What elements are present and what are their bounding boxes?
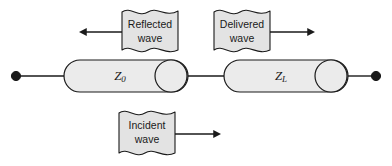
- z0-cylinder-endcap: [155, 60, 187, 92]
- transmission-line-diagram: Z0 ZL Reflected wave Delivered wave: [0, 0, 392, 166]
- incident-wave-callout: Incident wave: [119, 111, 214, 154]
- incident-wave-text-line1: Incident: [129, 119, 166, 131]
- delivered-wave-text-line1: Delivered: [220, 18, 265, 30]
- figure-root: Z0 ZL Reflected wave Delivered wave: [0, 0, 392, 166]
- delivered-wave-text-line2: wave: [229, 32, 255, 44]
- zl-cylinder-endcap: [315, 60, 347, 92]
- reflected-wave-callout: Reflected wave: [86, 10, 178, 51]
- reflected-wave-text-line2: wave: [137, 32, 163, 44]
- zl-subscript: L: [281, 74, 287, 84]
- delivered-wave-callout: Delivered wave: [214, 10, 308, 51]
- reflected-wave-text-line1: Reflected: [128, 18, 173, 30]
- zl-cylinder-group: ZL: [224, 60, 348, 92]
- z0-subscript: 0: [121, 74, 126, 84]
- incident-wave-text-line2: wave: [134, 133, 160, 145]
- left-terminal-dot: [11, 71, 20, 80]
- right-terminal-dot: [371, 71, 380, 80]
- z0-cylinder-group: Z0: [64, 60, 188, 92]
